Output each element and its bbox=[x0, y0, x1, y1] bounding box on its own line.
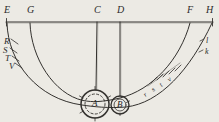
baseline-label-f: F bbox=[187, 5, 193, 15]
baseline-label-c: C bbox=[94, 5, 101, 15]
diagram-canvas bbox=[0, 0, 219, 122]
right-edge-tick-2 bbox=[199, 50, 203, 52]
circle-b-label: B bbox=[117, 100, 123, 109]
baseline-label-d: D bbox=[117, 5, 124, 15]
baseline-label-g: G bbox=[27, 5, 34, 15]
geometric-diagram: E G C D F H R S T V l k r s t v A B bbox=[0, 0, 219, 122]
left-tick-1 bbox=[11, 39, 18, 44]
baseline-label-h: H bbox=[206, 5, 213, 15]
circle-a-label: A bbox=[92, 99, 98, 108]
right-edge-label-l: l bbox=[206, 37, 208, 45]
vertical-line-c-to-a bbox=[96, 22, 97, 90]
left-tick-2 bbox=[10, 48, 17, 53]
inner-arc bbox=[30, 23, 190, 102]
left-tick-label-v: V bbox=[9, 62, 15, 71]
right-edge-label-k: k bbox=[205, 48, 209, 56]
baseline-label-e: E bbox=[4, 5, 10, 15]
